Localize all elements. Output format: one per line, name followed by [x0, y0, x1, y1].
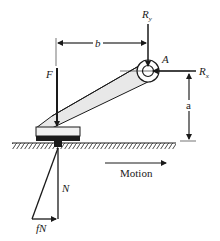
- label-a-dim: a: [186, 99, 191, 111]
- label-n: N: [61, 182, 70, 194]
- label-fn: fN: [36, 222, 47, 234]
- label-rx: Rx: [198, 65, 210, 80]
- lever-arm: [36, 63, 152, 128]
- label-b: b: [95, 37, 101, 49]
- force-triangle: [32, 148, 58, 219]
- label-motion: Motion: [120, 167, 153, 179]
- label-ry: Ry: [141, 8, 153, 23]
- dimension-b: [56, 37, 146, 66]
- label-f: F: [45, 68, 53, 80]
- ground: [12, 143, 176, 149]
- label-a-pivot: A: [161, 53, 169, 65]
- brake-shoe-diagram: F Ry Rx A b a N fN Motion: [0, 0, 220, 241]
